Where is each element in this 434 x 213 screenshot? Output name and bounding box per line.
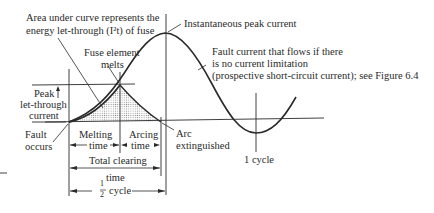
fault-occurs-label-line2: occurs	[25, 141, 52, 152]
arrow-right-icon	[113, 143, 119, 147]
peak-letthrough-label-line3: current	[29, 110, 59, 121]
peak-current-label: Instantaneous peak current	[184, 18, 297, 29]
arc-extinguished-label-line1: Arc	[176, 128, 192, 139]
leader-arc	[162, 123, 174, 130]
prospective-label-line1: Fault current that flows if there	[212, 46, 343, 57]
arrow-left-icon	[70, 143, 76, 147]
arrow-up-icon	[56, 86, 60, 91]
arc-extinguished-label-line2: extinguished	[176, 140, 230, 151]
area-label-line2: energy let-through (I²t) of fuse	[26, 25, 154, 36]
one-cycle-label: 1 cycle	[244, 154, 274, 165]
melting-time-label-line1: Melting	[79, 129, 112, 140]
melting-time-label-line2: time	[87, 140, 110, 151]
prospective-label-line2: is no current limitation	[212, 58, 308, 69]
half-cycle-denominator: 2	[100, 191, 104, 199]
arrow-right-icon	[154, 143, 160, 147]
total-clearing-label-line2: time	[106, 172, 125, 183]
total-clearing-label-line1: Total clearing	[89, 155, 147, 166]
fault-occurs-label-line1: Fault	[25, 129, 47, 140]
fuse-melts-label-line1: Fuse element	[84, 47, 140, 58]
prospective-label-line3: (prospective short-circuit current); see…	[212, 70, 418, 81]
leader-peak	[168, 24, 181, 32]
half-cycle-label: cycle	[109, 185, 131, 196]
half-cycle-numerator: 1	[100, 180, 104, 188]
arcing-time-label-line1: Arcing	[129, 129, 158, 140]
peak-letthrough-label-line2: let-through	[20, 99, 67, 110]
arrow-right-icon	[158, 189, 165, 193]
arrow-left-icon	[70, 166, 77, 170]
arrow-left-icon	[70, 189, 77, 193]
arrow-left-icon	[121, 143, 127, 147]
peak-letthrough-label-line1: Peak	[34, 88, 54, 99]
fuse-melts-label-line2: melts	[101, 59, 124, 70]
area-label-line1: Area under curve represents the	[26, 12, 160, 23]
arcing-time-label-line2: time	[130, 140, 151, 151]
leader-fault	[53, 124, 68, 142]
arrow-right-icon	[153, 166, 160, 170]
fuse-let-through-diagram: Area under curve represents the energy l…	[0, 0, 434, 213]
